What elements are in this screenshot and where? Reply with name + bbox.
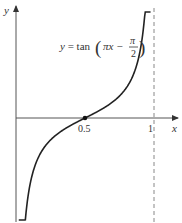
annotation-arg: πx − [103, 40, 124, 52]
x-tick-label: 1 [148, 123, 153, 134]
annotation-frac-den: 2 [131, 48, 136, 59]
x-axis-label: x [171, 122, 177, 134]
annotation-prefix: y = tan [59, 40, 91, 52]
marked-point [83, 116, 88, 121]
annotation-frac-num: π [130, 35, 136, 46]
chart: 0.51 x y y = tan ( πx − π 2 ) [0, 0, 182, 223]
annotation-right-paren: ) [139, 37, 145, 59]
x-tick-label: 0.5 [78, 123, 91, 134]
function-annotation: y = tan ( πx − π 2 ) [59, 35, 145, 59]
annotation-left-paren: ( [95, 37, 101, 59]
y-axis-label: y [3, 4, 9, 16]
annotation-eq: = tan [65, 40, 91, 52]
